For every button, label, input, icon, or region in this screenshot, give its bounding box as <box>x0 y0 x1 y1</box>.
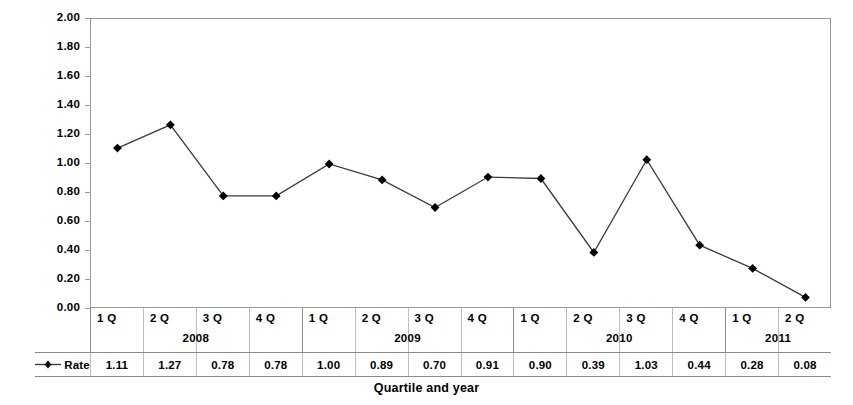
data-table-value-cell: 0.91 <box>461 353 514 376</box>
y-axis: 2.001.801.601.401.201.000.800.600.400.20… <box>0 0 90 320</box>
data-table-value-cell: 0.78 <box>196 353 249 376</box>
x-axis-quarter-label: 1 Q <box>520 312 539 324</box>
data-point-marker <box>378 176 387 185</box>
data-table-value-cell: 0.90 <box>513 353 566 376</box>
x-axis-quarter-cell: 4 Q <box>461 308 514 352</box>
x-axis-quarter-label: 2 Q <box>573 312 592 324</box>
data-table-value-cell: 0.39 <box>566 353 619 376</box>
y-tick-label: 0.40 <box>57 244 80 256</box>
x-axis-quarter-cell: 4 Q <box>672 308 725 352</box>
y-tick-label: 1.00 <box>57 157 80 169</box>
x-axis-year-label: 2008 <box>90 332 302 344</box>
y-tick-label: 1.20 <box>57 128 80 140</box>
line-series-svg <box>91 19 832 309</box>
data-table-value-cell: 0.08 <box>778 353 831 376</box>
data-point-marker <box>801 293 810 302</box>
data-table-value-cell: 0.44 <box>672 353 725 376</box>
x-axis-title: Quartile and year <box>0 381 853 395</box>
x-axis-quarter-cell: 1 Q <box>725 308 778 352</box>
x-axis-category-band: 1 Q2 Q3 Q4 Q1 Q2 Q3 Q4 Q1 Q2 Q3 Q4 Q1 Q2… <box>90 308 831 352</box>
data-table-value-cell: 1.00 <box>302 353 355 376</box>
y-tick-label: 1.80 <box>57 41 80 53</box>
data-table: Rate 1.111.270.780.781.000.890.700.910.9… <box>35 352 831 377</box>
x-axis-quarter-cell: 2 Q <box>355 308 408 352</box>
x-axis-quarter-cell: 3 Q <box>619 308 672 352</box>
x-axis-quarter-cell: 4 Q <box>249 308 302 352</box>
x-axis-quarter-label: 2 Q <box>785 312 804 324</box>
data-table-value-cell: 0.28 <box>725 353 778 376</box>
data-point-marker <box>589 248 598 257</box>
data-point-marker <box>431 203 440 212</box>
data-point-marker <box>325 160 334 169</box>
data-point-marker <box>272 192 281 201</box>
x-axis-year-label: 2010 <box>513 332 725 344</box>
x-axis-quarter-label: 1 Q <box>97 312 116 324</box>
x-axis-quarter-label: 2 Q <box>362 312 381 324</box>
x-axis-quarter-label: 4 Q <box>679 312 698 324</box>
x-axis-quarter-cell: 2 Q <box>778 308 831 352</box>
data-table-value-cell: 1.11 <box>90 353 143 376</box>
data-table-value-cell: 0.70 <box>408 353 461 376</box>
plot-area <box>90 18 831 308</box>
x-axis-quarter-cell: 1 Q <box>302 308 355 352</box>
x-axis-quarter-label: 3 Q <box>415 312 434 324</box>
y-tick-label: 1.40 <box>57 99 80 111</box>
x-axis-year-label: 2009 <box>302 332 514 344</box>
y-tick-label: 0.00 <box>57 302 80 314</box>
legend-line-diamond-icon <box>35 359 61 370</box>
x-axis-quarter-cell: 2 Q <box>566 308 619 352</box>
chart-root: 2.001.801.601.401.201.000.800.600.400.20… <box>0 0 853 405</box>
data-point-marker <box>113 144 122 153</box>
x-axis-quarter-cell: 3 Q <box>408 308 461 352</box>
data-table-value-cell: 0.89 <box>355 353 408 376</box>
data-table-value-cell: 0.78 <box>249 353 302 376</box>
x-axis-quarter-label: 1 Q <box>732 312 751 324</box>
x-axis-quarter-label: 2 Q <box>150 312 169 324</box>
x-axis-quarter-cell: 2 Q <box>143 308 196 352</box>
y-tick-label: 2.00 <box>57 12 80 24</box>
y-tick-label: 1.60 <box>57 70 80 82</box>
x-axis-quarter-cell: 1 Q <box>513 308 566 352</box>
data-point-marker <box>695 241 704 250</box>
y-tick-label: 0.60 <box>57 215 80 227</box>
legend-entry-rate: Rate <box>35 353 90 376</box>
data-point-marker <box>484 173 493 182</box>
data-point-marker <box>642 155 651 164</box>
x-axis-quarter-label: 4 Q <box>468 312 487 324</box>
y-tick-label: 0.20 <box>57 273 80 285</box>
x-axis-quarter-label: 1 Q <box>309 312 328 324</box>
data-table-value-cell: 1.03 <box>619 353 672 376</box>
x-axis-quarter-label: 4 Q <box>256 312 275 324</box>
x-axis-quarter-label: 3 Q <box>626 312 645 324</box>
x-axis-quarter-label: 3 Q <box>203 312 222 324</box>
x-axis-quarter-cell: 1 Q <box>90 308 143 352</box>
y-tick-label: 0.80 <box>57 186 80 198</box>
data-point-marker <box>748 264 757 273</box>
data-point-marker <box>536 174 545 183</box>
series-line-rate <box>117 125 805 298</box>
data-table-value-cell: 1.27 <box>143 353 196 376</box>
x-axis-year-label: 2011 <box>725 332 831 344</box>
x-axis-quarter-cell: 3 Q <box>196 308 249 352</box>
legend-label-rate: Rate <box>64 359 90 371</box>
